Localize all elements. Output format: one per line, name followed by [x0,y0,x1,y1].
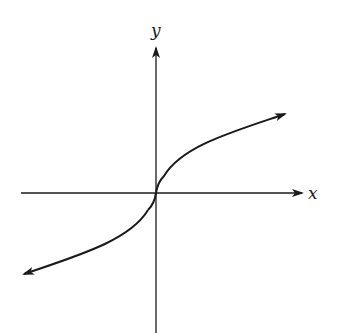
function-curve-lower-join [148,193,156,210]
function-curve-upper [156,114,285,193]
graph-canvas: y x [0,0,342,333]
x-axis-label: x [308,183,318,203]
function-curve [24,210,148,274]
y-axis-label: y [150,20,161,40]
